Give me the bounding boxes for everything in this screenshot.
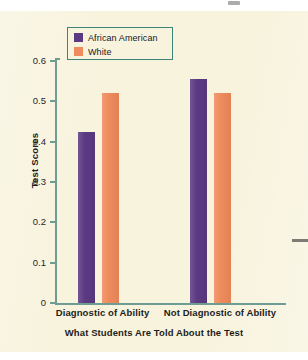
x-axis-title: What Students Are Told About the Test xyxy=(0,327,308,338)
y-axis-tick-label-text: 0.6 xyxy=(14,55,46,66)
scan-artifact-right-icon xyxy=(292,239,308,242)
bar-african-american-not-diagnostic-of-ability xyxy=(190,79,207,303)
bar-white-not-diagnostic-of-ability xyxy=(214,93,231,303)
y-axis-title: Test Scores xyxy=(29,121,40,201)
legend-item-white: White xyxy=(74,45,172,58)
bar-african-american-diagnostic-of-ability xyxy=(78,132,95,303)
legend-label-african-american: African American xyxy=(88,33,158,43)
y-axis-tick-label-text: 0.1 xyxy=(14,257,46,268)
bar-white-diagnostic-of-ability xyxy=(102,93,119,303)
legend-swatch-white-icon xyxy=(74,47,83,56)
x-category-label-not-diagnostic: Not Diagnostic of Ability xyxy=(130,307,308,318)
figure-page: 00.10.20.30.40.50.6 Test Scores Diagnost… xyxy=(0,0,308,360)
legend-label-white: White xyxy=(88,47,112,57)
y-axis-tick-label-text: 0.5 xyxy=(14,95,46,106)
legend: African American White xyxy=(67,27,173,60)
x-axis-line xyxy=(55,303,286,305)
bar-shading xyxy=(190,79,207,303)
scan-artifact-top-icon xyxy=(228,1,240,5)
bar-shading xyxy=(78,132,95,303)
legend-swatch-african-american-icon xyxy=(74,33,83,42)
plot-area xyxy=(55,61,285,303)
y-axis-tick-label-text: 0.2 xyxy=(14,216,46,227)
bar-shading xyxy=(102,93,119,303)
bar-shading xyxy=(214,93,231,303)
legend-item-african-american: African American xyxy=(74,31,172,44)
